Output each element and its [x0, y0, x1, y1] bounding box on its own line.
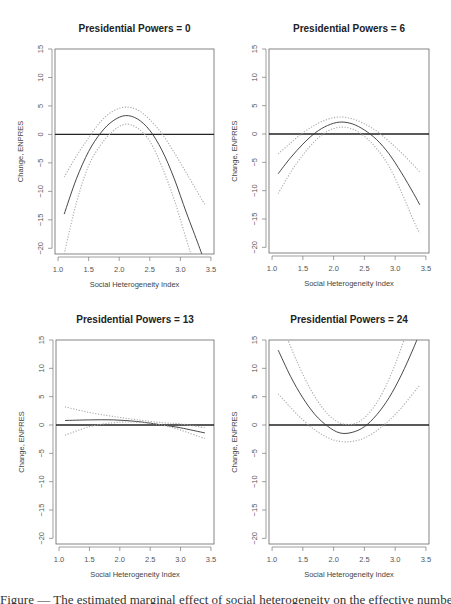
y-axis-label: Change, ENPRES: [230, 411, 239, 472]
y-tick-label: −10: [37, 475, 46, 488]
x-tick-label: 2.0: [328, 555, 338, 564]
series-estimate: [65, 420, 205, 433]
y-tick-label: 15: [250, 336, 259, 344]
y-tick-label: 10: [36, 73, 45, 81]
figure-caption: Figure — The estimated marginal effect o…: [0, 592, 451, 604]
chart-panel-0: Presidential Powers = 0151050−5−10−15−20…: [16, 23, 216, 289]
y-tick-label: 15: [36, 45, 45, 53]
panel-title: Presidential Powers = 0: [79, 23, 191, 34]
panel-title: Presidential Powers = 24: [290, 314, 408, 325]
x-tick-label: 2.0: [114, 265, 124, 274]
plot-frame: [269, 340, 429, 544]
x-tick-label: 2.5: [359, 264, 369, 273]
panel-title: Presidential Powers = 6: [293, 23, 405, 34]
x-tick-label: 2.0: [115, 555, 125, 564]
chart-panel-1: Presidential Powers = 6151050−5−10−15−20…: [230, 23, 431, 288]
y-tick-label: −20: [36, 242, 45, 255]
y-tick-label: 0: [36, 132, 45, 136]
y-tick-label: 15: [250, 45, 259, 53]
chart-panel-3: Presidential Powers = 24151050−5−10−15−2…: [230, 314, 431, 579]
y-tick-label: −5: [250, 449, 259, 458]
y-tick-label: 5: [36, 104, 45, 108]
y-tick-label: 10: [250, 73, 259, 81]
y-tick-label: 0: [37, 423, 46, 427]
y-tick-label: 10: [250, 364, 259, 372]
y-tick-label: −5: [250, 158, 259, 167]
x-axis-label: Social Heterogeneity Index: [304, 570, 394, 579]
x-tick-label: 2.5: [145, 555, 155, 564]
x-tick-label: 1.5: [84, 555, 94, 564]
x-tick-label: 1.5: [83, 265, 93, 274]
x-tick-label: 3.5: [206, 555, 216, 564]
x-tick-label: 3.5: [421, 264, 431, 273]
y-tick-label: 10: [37, 364, 46, 372]
y-tick-label: −20: [250, 532, 259, 545]
chart-panel-2: Presidential Powers = 13151050−5−10−15−2…: [17, 314, 216, 579]
y-tick-label: −15: [250, 504, 259, 517]
y-tick-label: 5: [250, 395, 259, 399]
series-upper-ci: [288, 339, 405, 425]
panel-title: Presidential Powers = 13: [76, 314, 194, 325]
x-tick-label: 3.0: [175, 555, 185, 564]
x-tick-label: 2.5: [359, 555, 369, 564]
series-lower-ci: [278, 127, 420, 233]
series-lower-ci: [64, 124, 192, 260]
x-tick-label: 1.0: [54, 555, 64, 564]
y-axis-label: Change, ENPRES: [17, 411, 26, 472]
x-tick-label: 2.5: [145, 265, 155, 274]
x-tick-label: 1.0: [267, 264, 277, 273]
y-tick-label: −15: [37, 504, 46, 517]
y-tick-label: −5: [36, 159, 45, 168]
plot-frame: [269, 49, 429, 253]
series-estimate: [278, 332, 420, 433]
y-tick-label: −10: [250, 184, 259, 197]
x-tick-label: 3.0: [175, 265, 185, 274]
x-tick-label: 3.5: [421, 555, 431, 564]
x-tick-label: 1.5: [298, 264, 308, 273]
y-tick-label: 0: [250, 423, 259, 427]
y-tick-label: 0: [250, 132, 259, 136]
x-axis-label: Social Heterogeneity Index: [90, 280, 180, 289]
y-axis-label: Change, ENPRES: [230, 120, 239, 181]
y-tick-label: 5: [37, 395, 46, 399]
plot-frame: [56, 340, 214, 544]
x-tick-label: 1.5: [298, 555, 308, 564]
y-tick-label: 5: [250, 104, 259, 108]
x-tick-label: 1.0: [267, 555, 277, 564]
x-axis-label: Social Heterogeneity Index: [90, 570, 180, 579]
x-tick-label: 3.0: [390, 555, 400, 564]
y-tick-label: −20: [250, 241, 259, 254]
y-tick-label: 15: [37, 336, 46, 344]
y-axis-label: Change, ENPRES: [16, 121, 25, 182]
series-upper-ci: [278, 117, 420, 172]
series-estimate: [64, 116, 205, 263]
y-tick-label: −5: [37, 449, 46, 458]
y-tick-label: −15: [250, 213, 259, 226]
x-tick-label: 3.0: [390, 264, 400, 273]
x-tick-label: 3.5: [206, 265, 216, 274]
x-tick-label: 1.0: [53, 265, 63, 274]
series-upper-ci: [64, 107, 205, 204]
y-tick-label: −10: [250, 475, 259, 488]
x-axis-label: Social Heterogeneity Index: [304, 279, 394, 288]
y-tick-label: −10: [36, 185, 45, 198]
y-tick-label: −15: [36, 213, 45, 226]
y-tick-label: −20: [37, 532, 46, 545]
x-tick-label: 2.0: [328, 264, 338, 273]
